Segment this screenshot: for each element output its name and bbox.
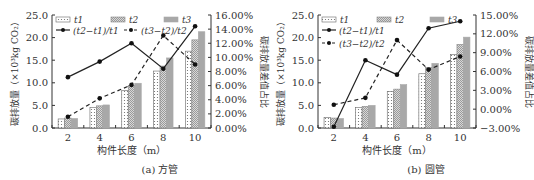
- bar-t3: [463, 37, 470, 128]
- line-marker: [161, 66, 166, 71]
- legend-label: (t2−t1)/t1: [339, 26, 385, 36]
- y-tick-label: 25.0: [26, 10, 48, 21]
- legend-label: t2: [395, 15, 405, 25]
- legend-swatch-t2: [377, 17, 391, 22]
- line-marker: [363, 58, 368, 63]
- line-marker: [97, 59, 102, 64]
- line-marker: [129, 41, 134, 46]
- legend-label: t2: [129, 15, 139, 25]
- line-marker: [193, 24, 198, 29]
- x-tick-label: 6: [394, 132, 400, 143]
- y2-tick-label: 10.00%: [215, 52, 253, 63]
- legend-label: t3: [182, 15, 192, 25]
- legend-swatch-t3: [430, 17, 444, 22]
- bar-t3: [432, 63, 439, 128]
- y2-tick-label: 12.00%: [480, 28, 518, 39]
- bar-t1: [90, 108, 97, 128]
- x-tick-label: 8: [160, 132, 166, 143]
- legend-swatch-t2: [111, 17, 125, 22]
- bar-t1: [122, 90, 129, 128]
- y2-tick-label: 3.00%: [480, 85, 512, 96]
- x-tick-label: 10: [454, 132, 467, 143]
- legend-marker: [129, 28, 133, 32]
- line-marker: [193, 62, 198, 67]
- y2-tick-label: 8.00%: [215, 66, 247, 77]
- y2-tick-label: 4.00%: [215, 94, 247, 105]
- line-marker: [66, 75, 71, 80]
- bar-t1: [154, 71, 161, 128]
- y-tick-label: 5.0: [298, 100, 314, 111]
- legend-label: t1: [74, 15, 83, 25]
- bar-t1: [450, 54, 457, 128]
- y-tick-label: 20.0: [292, 32, 314, 43]
- x-tick-label: 2: [331, 132, 337, 143]
- bar-t3: [167, 58, 174, 128]
- figure: 0.05.010.015.020.025.00.00%2.00%4.00%6.0…: [0, 0, 534, 180]
- line-marker: [332, 102, 337, 107]
- chart-round-tube: 0.05.010.015.020.025.0−3.00%0.00%3.00%6.…: [275, 10, 534, 176]
- bar-t3: [103, 105, 110, 128]
- legend-label: (t3−t2)/t2: [141, 26, 187, 36]
- y-tick-label: 15.0: [292, 55, 314, 66]
- bar-t2: [192, 40, 199, 128]
- x-tick-label: 4: [97, 132, 103, 143]
- line-marker: [97, 96, 102, 101]
- legend-label: t1: [340, 15, 349, 25]
- legend-label: (t3−t2)/t2: [339, 39, 385, 49]
- y2-tick-label: 15.00%: [480, 10, 518, 21]
- y2-tick-label: 9.00%: [480, 47, 512, 58]
- line-marker: [426, 26, 431, 31]
- y2-axis-label: 碳排放量差值占比: [259, 36, 270, 108]
- line-marker: [395, 72, 400, 77]
- y2-tick-label: 12.00%: [215, 38, 253, 49]
- x-axis-label: 构件长度（m）: [362, 144, 431, 156]
- y-tick-label: 25.0: [292, 10, 314, 21]
- y2-tick-label: −3.00%: [480, 123, 520, 134]
- x-tick-label: 8: [425, 132, 431, 143]
- y-axis-label: 碳排放量（×10³kg CO₂）: [9, 17, 20, 126]
- bar-t3: [369, 105, 376, 128]
- bar-t3: [400, 85, 407, 128]
- x-tick-label: 6: [128, 132, 134, 143]
- y2-tick-label: 0.00%: [480, 104, 512, 115]
- y-tick-label: 10.0: [26, 77, 48, 88]
- y2-tick-label: 14.00%: [215, 24, 253, 35]
- line-marker: [66, 114, 71, 119]
- y2-tick-label: 16.00%: [215, 10, 253, 21]
- bar-t2: [394, 89, 401, 128]
- bar-t1: [387, 91, 394, 128]
- y-tick-label: 15.0: [26, 55, 48, 66]
- bar-t2: [362, 106, 369, 128]
- bar-t2: [160, 66, 167, 128]
- x-axis-label: 构件长度（m）: [97, 144, 166, 156]
- line-marker: [395, 38, 400, 43]
- bar-t3: [198, 32, 205, 128]
- x-tick-label: 4: [362, 132, 368, 143]
- legend-swatch-t3: [164, 17, 178, 22]
- figure-caption: (b) 圆管: [407, 163, 444, 175]
- legend-marker: [327, 41, 331, 45]
- bar-t2: [128, 86, 135, 128]
- y-tick-label: 0.0: [32, 123, 48, 134]
- y-tick-label: 5.0: [32, 100, 48, 111]
- chart-square-tube: 0.05.010.015.020.025.00.00%2.00%4.00%6.0…: [9, 10, 270, 176]
- legend-swatch-t1: [322, 17, 336, 22]
- y2-axis-label: 碳排放量差值占比: [524, 36, 534, 108]
- figure-caption: (a) 方管: [142, 163, 179, 175]
- y-tick-label: 10.0: [292, 77, 314, 88]
- legend-label: t3: [448, 15, 458, 25]
- line-marker: [129, 83, 134, 88]
- y2-tick-label: 6.00%: [480, 66, 512, 77]
- bar-t2: [96, 106, 103, 128]
- y-tick-label: 0.0: [298, 123, 314, 134]
- bar-t1: [356, 108, 363, 128]
- legend-marker: [61, 28, 65, 32]
- y2-tick-label: 0.00%: [215, 123, 247, 134]
- bar-t1: [324, 118, 331, 128]
- bar-t3: [337, 119, 344, 128]
- line-marker: [458, 19, 463, 24]
- bar-t2: [65, 118, 72, 128]
- bar-t3: [135, 83, 142, 128]
- bar-t2: [425, 67, 432, 128]
- legend-label: (t2−t1)/t1: [73, 26, 119, 36]
